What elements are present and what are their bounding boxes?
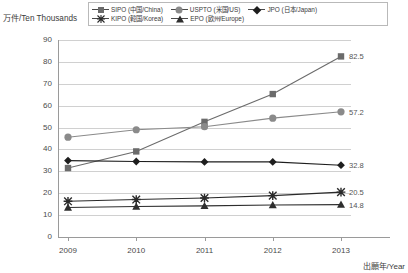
y-axis-title: 万件/Ten Thousands — [3, 14, 77, 25]
patent-applications-line-chart: SIPO (中国/China) USPTO (米国/US) JPO (日本/Ja… — [0, 0, 408, 273]
x-axis-tick-mark — [205, 237, 206, 241]
legend-label-epo: EPO (欧州/Europe) — [190, 14, 244, 23]
circle-marker-icon — [171, 5, 188, 14]
y-axis-tick-label: 50 — [22, 123, 52, 132]
y-axis-tick-label: 80 — [22, 57, 52, 66]
series-end-label: 20.5 — [349, 188, 364, 197]
legend-item-uspto[interactable]: USPTO (米国/US) — [171, 5, 241, 14]
x-axis-tick-label: 2012 — [264, 246, 282, 255]
diamond-marker-icon — [248, 5, 265, 14]
legend-row-2: KIPO (韓国/Korea) EPO (欧州/Europe) — [92, 14, 384, 23]
x-axis-tick-label: 2013 — [332, 246, 350, 255]
series-end-label: 82.5 — [349, 52, 364, 61]
x-axis-tick-label: 2010 — [127, 246, 145, 255]
plot-area — [58, 40, 351, 237]
y-axis-tick-label: 10 — [22, 210, 52, 219]
y-axis-tick-label: 60 — [22, 101, 52, 110]
x-marker-icon — [92, 14, 109, 23]
y-axis-tick-label: 90 — [22, 35, 52, 44]
legend-item-kipo[interactable]: KIPO (韓国/Korea) — [92, 14, 163, 23]
chart-legend: SIPO (中国/China) USPTO (米国/US) JPO (日本/Ja… — [88, 2, 388, 26]
x-axis-tick-mark — [136, 237, 137, 241]
series-end-label: 32.8 — [349, 161, 364, 170]
legend-label-jpo: JPO (日本/Japan) — [267, 5, 317, 14]
x-axis-tick-mark — [273, 237, 274, 241]
triangle-marker-icon — [171, 14, 188, 23]
square-marker-icon — [92, 5, 109, 14]
series-end-label: 57.2 — [349, 107, 364, 116]
y-axis-tick-label: 70 — [22, 79, 52, 88]
legend-item-sipo[interactable]: SIPO (中国/China) — [92, 5, 163, 14]
legend-label-kipo: KIPO (韓国/Korea) — [111, 14, 163, 23]
y-axis-tick-label: 20 — [22, 188, 52, 197]
legend-label-sipo: SIPO (中国/China) — [111, 5, 163, 14]
x-axis-tick-mark — [68, 237, 69, 241]
legend-row-1: SIPO (中国/China) USPTO (米国/US) JPO (日本/Ja… — [92, 5, 384, 14]
x-axis-tick-mark — [341, 237, 342, 241]
x-axis-title: 出願年/Year — [363, 260, 405, 271]
legend-item-epo[interactable]: EPO (欧州/Europe) — [171, 14, 244, 23]
legend-label-uspto: USPTO (米国/US) — [190, 5, 241, 14]
series-end-label: 14.8 — [349, 200, 364, 209]
legend-item-jpo[interactable]: JPO (日本/Japan) — [248, 5, 317, 14]
y-axis-tick-label: 40 — [22, 144, 52, 153]
y-axis-tick-label: 0 — [22, 232, 52, 241]
y-axis-tick-label: 30 — [22, 166, 52, 175]
x-axis-tick-label: 2009 — [59, 246, 77, 255]
x-axis-tick-label: 2011 — [196, 246, 213, 255]
